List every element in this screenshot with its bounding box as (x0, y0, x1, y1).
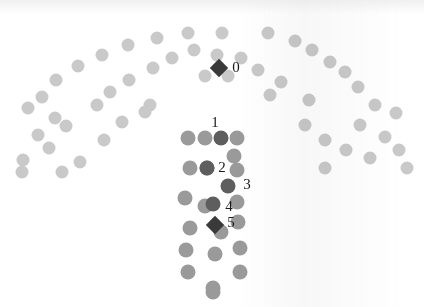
data-point-arc-dots-38 (32, 129, 45, 142)
data-point-column-dots-14 (233, 241, 248, 256)
data-point-arc-dots-28 (22, 102, 35, 115)
point-label-3: 3 (243, 177, 251, 192)
data-point-arc-dots-27 (303, 94, 316, 107)
data-point-arc-dots-37 (354, 119, 367, 132)
data-point-arc-dots-8 (96, 49, 109, 62)
data-point-arc-dots-35 (299, 119, 312, 132)
data-point-arc-dots-51 (319, 162, 332, 175)
data-point-highlighted-dots-2 (221, 179, 236, 194)
data-point-arc-dots-29 (369, 99, 382, 112)
data-point-arc-dots-4 (122, 39, 135, 52)
data-point-arc-dots-10 (166, 52, 179, 65)
data-point-column-dots-4 (183, 161, 198, 176)
data-point-arc-dots-2 (151, 32, 164, 45)
point-label-4: 4 (225, 199, 233, 214)
data-point-column-dots-0 (181, 131, 196, 146)
data-point-arc-dots-49 (401, 162, 414, 175)
data-point-arc-dots-45 (393, 144, 406, 157)
data-point-highlighted-dots-3 (206, 197, 221, 212)
data-point-highlighted-dots-0 (214, 131, 229, 146)
data-point-arc-dots-9 (306, 44, 319, 57)
data-point-arc-dots-13 (324, 56, 337, 69)
point-label-0: 0 (232, 60, 240, 75)
data-point-column-dots-11 (183, 221, 198, 236)
data-point-arc-dots-40 (98, 134, 111, 147)
data-point-column-dots-16 (181, 265, 196, 280)
data-point-arc-dots-42 (43, 142, 56, 155)
data-point-arc-dots-23 (352, 81, 365, 94)
data-point-arc-dots-44 (17, 154, 30, 167)
data-point-arc-dots-15 (252, 64, 265, 77)
data-point-arc-dots-16 (199, 70, 212, 83)
data-point-column-dots-6 (230, 163, 245, 178)
data-point-column-dots-1 (198, 131, 213, 146)
data-point-highlighted-dots-1 (200, 161, 215, 176)
data-point-arc-dots-19 (339, 66, 352, 79)
data-point-arc-dots-43 (340, 144, 353, 157)
data-point-arc-dots-24 (104, 86, 117, 99)
data-point-arc-dots-12 (72, 60, 85, 73)
data-point-arc-dots-34 (116, 116, 129, 129)
figure-canvas: 012345 (0, 0, 424, 307)
data-point-arc-dots-22 (36, 91, 49, 104)
data-point-arc-dots-14 (147, 62, 160, 75)
data-point-arc-dots-41 (319, 134, 332, 147)
data-point-arc-dots-36 (60, 120, 73, 133)
data-point-arc-dots-46 (74, 156, 87, 169)
data-point-arc-dots-20 (123, 74, 136, 87)
point-label-1: 1 (211, 115, 219, 130)
data-point-arc-dots-3 (262, 27, 275, 40)
data-point-column-dots-3 (227, 149, 242, 164)
data-point-column-dots-2 (230, 131, 245, 146)
data-point-arc-dots-21 (275, 76, 288, 89)
data-point-column-dots-7 (178, 191, 193, 206)
data-point-column-dots-19 (206, 285, 221, 300)
data-point-arc-dots-50 (56, 166, 69, 179)
data-point-column-dots-15 (208, 247, 223, 262)
data-point-arc-dots-6 (188, 44, 201, 57)
data-point-arc-dots-31 (139, 106, 152, 119)
point-label-5: 5 (227, 215, 235, 230)
data-point-column-dots-17 (233, 265, 248, 280)
data-point-arc-dots-25 (264, 89, 277, 102)
data-point-arc-dots-5 (289, 35, 302, 48)
data-point-arc-dots-26 (91, 99, 104, 112)
data-point-arc-dots-1 (216, 27, 229, 40)
data-point-arc-dots-39 (379, 131, 392, 144)
data-point-arc-dots-0 (182, 27, 195, 40)
data-point-arc-dots-48 (16, 166, 29, 179)
point-label-2: 2 (218, 160, 226, 175)
data-point-arc-dots-47 (364, 152, 377, 165)
data-point-arc-dots-18 (50, 74, 63, 87)
data-point-column-dots-13 (179, 243, 194, 258)
data-point-arc-dots-33 (390, 107, 403, 120)
